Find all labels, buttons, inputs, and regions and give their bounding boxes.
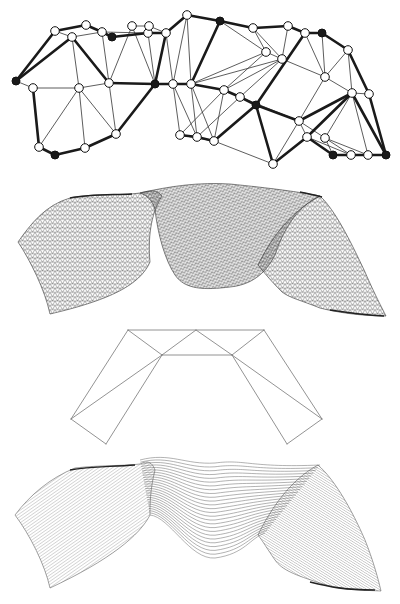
free-node-icon (321, 73, 330, 82)
free-node-icon (364, 151, 373, 160)
graph-edge-thick (256, 105, 299, 121)
free-node-icon (128, 22, 137, 31)
flow-line (142, 470, 309, 482)
free-node-icon (278, 55, 287, 64)
fixed-node-icon (318, 29, 326, 37)
free-node-icon (365, 90, 374, 99)
free-node-icon (169, 80, 178, 89)
fold-segment (106, 355, 162, 444)
free-node-icon (51, 27, 60, 36)
free-node-icon (193, 133, 202, 142)
graph-edge-thick (369, 94, 386, 155)
free-node-icon (183, 11, 192, 20)
free-node-icon (35, 143, 44, 152)
lines-left-lobe (15, 462, 155, 588)
fixed-node-icon (216, 17, 224, 25)
graph-edge-thin (187, 15, 191, 84)
fold-segment (71, 419, 106, 444)
graph-edge-thin (282, 59, 325, 77)
graph-edge-thin (39, 88, 79, 147)
line-mesh-surface (15, 457, 381, 591)
graph-edge-thin (305, 33, 325, 77)
fixed-node-icon (252, 101, 260, 109)
graph-edge-thick (273, 137, 307, 164)
fold-segment (128, 330, 162, 355)
graph-edge-thin (273, 121, 299, 164)
free-node-icon (75, 84, 84, 93)
free-node-icon (187, 80, 196, 89)
graph-edge-thick (85, 134, 116, 148)
graph-edge-thick (352, 93, 386, 155)
free-node-icon (145, 22, 154, 31)
graph-edge-thick (112, 33, 148, 37)
fold-segment (232, 355, 287, 444)
graph-edge-thin (79, 88, 85, 148)
graph-edge-thin (322, 33, 325, 77)
graph-edge-thick (33, 88, 39, 147)
flow-line (140, 457, 320, 465)
free-node-icon (162, 29, 171, 38)
graph-edge-thick (155, 33, 166, 84)
flow-line (141, 462, 316, 471)
free-node-icon (321, 134, 330, 143)
free-node-icon (344, 46, 353, 55)
graph-edge-thick (109, 83, 155, 84)
graph-edge-thick (191, 84, 224, 90)
lines-right-lobe (258, 465, 381, 591)
graph-edge-thick (253, 26, 288, 28)
free-node-icon (105, 79, 114, 88)
graph-edge-thin (148, 33, 155, 84)
graph-edge-thick (256, 105, 273, 164)
free-node-icon (236, 93, 245, 102)
free-node-icon (210, 137, 219, 146)
fixed-node-icon (382, 151, 390, 159)
graph-edge-thick (116, 84, 155, 134)
fold-segment (162, 330, 196, 355)
fold-segment (71, 330, 128, 419)
graph-edge-thin (352, 93, 368, 155)
fixed-node-icon (12, 77, 20, 85)
fold-segment (287, 419, 322, 444)
fixed-node-icon (329, 151, 337, 159)
free-node-icon (301, 29, 310, 38)
free-node-icon (348, 89, 357, 98)
flow-line (150, 515, 265, 558)
free-node-icon (68, 33, 77, 42)
free-node-icon (284, 22, 293, 31)
graph-edge-thick (191, 21, 220, 84)
fold-segment (71, 355, 162, 419)
triangulated-graph (12, 11, 390, 169)
graph-edge-thin (214, 141, 273, 164)
free-node-icon (81, 144, 90, 153)
fold-segment (196, 330, 232, 355)
graph-edge-thick (187, 15, 220, 21)
flow-line (142, 467, 312, 478)
fold-segment (232, 355, 322, 419)
free-node-icon (269, 160, 278, 169)
graph-edge-thin (166, 33, 173, 84)
free-node-icon (98, 28, 107, 37)
triangle-mesh-surface (18, 183, 386, 316)
free-node-icon (262, 48, 271, 57)
free-node-icon (29, 84, 38, 93)
free-node-icon (82, 21, 91, 30)
graph-edge-thin (282, 26, 288, 59)
graph-edge-thin (325, 50, 348, 77)
flow-line (140, 460, 317, 469)
folded-strip-outline (71, 330, 322, 444)
figure-canvas (0, 0, 400, 604)
fixed-node-icon (51, 151, 59, 159)
free-node-icon (220, 86, 229, 95)
graph-nodes (12, 11, 390, 169)
free-node-icon (112, 130, 121, 139)
fold-segment (264, 330, 322, 419)
free-node-icon (303, 133, 312, 142)
graph-edge-thin (180, 90, 224, 135)
fold-segment (232, 330, 264, 355)
free-node-icon (295, 117, 304, 126)
free-node-icon (347, 151, 356, 160)
mesh-left-lobe (18, 191, 162, 314)
free-node-icon (176, 131, 185, 140)
fixed-node-icon (108, 33, 116, 41)
free-node-icon (249, 24, 258, 33)
